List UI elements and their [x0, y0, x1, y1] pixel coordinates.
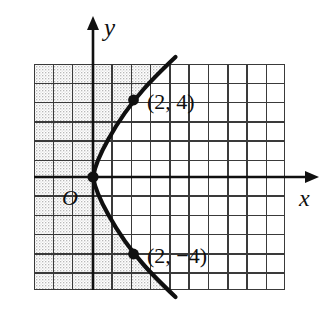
origin-label: O	[62, 185, 78, 210]
point-origin-dot	[87, 171, 98, 182]
point-label-upper: (2, 4)	[147, 89, 195, 114]
point-label-lower: (2, −4)	[147, 243, 207, 268]
parabola-figure: y x O (2, 4) (2, −4)	[0, 0, 328, 322]
y-axis-arrowhead	[87, 16, 99, 30]
x-axis-label: x	[298, 185, 310, 211]
graph-svg: y x O (2, 4) (2, −4)	[0, 0, 328, 322]
y-axis-label: y	[101, 14, 116, 41]
x-axis-arrowhead	[305, 171, 319, 183]
point-2-minus4-dot	[128, 249, 139, 260]
point-2-4-dot	[128, 95, 139, 106]
